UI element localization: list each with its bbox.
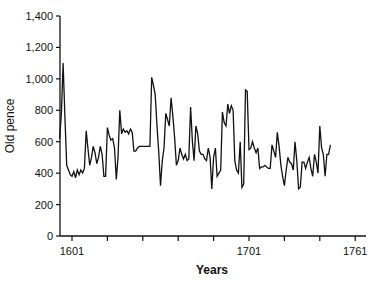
y-tick-label: 600 (35, 136, 53, 148)
x-axis: 160117011761 (60, 236, 368, 257)
x-tick-label: 1761 (343, 245, 367, 257)
y-tick-label: 400 (35, 167, 53, 179)
y-tick-label: 0 (47, 230, 53, 242)
y-axis-title: Old pence (3, 98, 17, 153)
y-tick-label: 1,400 (25, 10, 53, 22)
y-tick-label: 200 (35, 199, 53, 211)
x-tick-label: 1701 (237, 245, 261, 257)
y-tick-label: 1,000 (25, 73, 53, 85)
y-tick-label: 1,200 (25, 41, 53, 53)
x-axis-title: Years (196, 263, 228, 277)
y-tick-label: 800 (35, 104, 53, 116)
y-axis: 02004006008001,0001,2001,400 (25, 10, 60, 242)
x-tick-label: 1601 (60, 245, 84, 257)
price-series-line (60, 63, 331, 189)
line-chart: 02004006008001,0001,2001,400 16011701176… (0, 0, 376, 282)
